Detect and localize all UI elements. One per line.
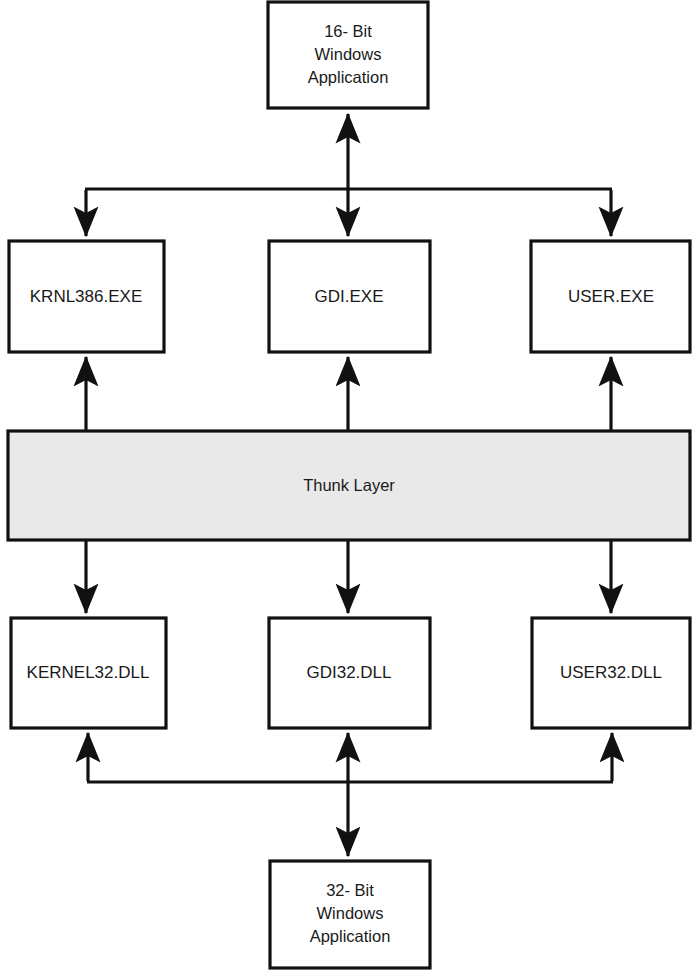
- architecture-diagram: 16- Bit Windows Application KRNL386.EXE …: [0, 0, 698, 972]
- node-16bit-windows-application-line2: Windows: [315, 45, 382, 63]
- node-gdi32-dll-label: GDI32.DLL: [306, 663, 391, 682]
- node-16bit-windows-application[interactable]: 16- Bit Windows Application: [268, 2, 428, 108]
- node-gdi-exe-label: GDI.EXE: [315, 287, 384, 306]
- diagram-canvas: 16- Bit Windows Application KRNL386.EXE …: [0, 0, 698, 972]
- node-user-exe-label: USER.EXE: [568, 287, 654, 306]
- node-thunk-layer-label: Thunk Layer: [303, 476, 395, 494]
- node-thunk-layer[interactable]: Thunk Layer: [8, 431, 690, 540]
- node-user32-dll-label: USER32.DLL: [560, 663, 662, 682]
- node-user-exe[interactable]: USER.EXE: [531, 241, 690, 352]
- node-gdi32-dll[interactable]: GDI32.DLL: [269, 618, 430, 728]
- node-krnl386-exe[interactable]: KRNL386.EXE: [9, 241, 164, 352]
- node-32bit-windows-application[interactable]: 32- Bit Windows Application: [270, 861, 430, 968]
- node-kernel32-dll-label: KERNEL32.DLL: [27, 663, 150, 682]
- node-16bit-windows-application-line3: Application: [308, 68, 389, 86]
- node-krnl386-exe-label: KRNL386.EXE: [30, 287, 142, 306]
- node-16bit-windows-application-line1: 16- Bit: [324, 22, 372, 40]
- node-32bit-windows-application-line3: Application: [310, 927, 391, 945]
- node-user32-dll[interactable]: USER32.DLL: [532, 618, 690, 728]
- node-32bit-windows-application-line2: Windows: [317, 904, 384, 922]
- node-gdi-exe[interactable]: GDI.EXE: [269, 241, 430, 352]
- node-kernel32-dll[interactable]: KERNEL32.DLL: [11, 618, 166, 728]
- node-32bit-windows-application-line1: 32- Bit: [326, 881, 374, 899]
